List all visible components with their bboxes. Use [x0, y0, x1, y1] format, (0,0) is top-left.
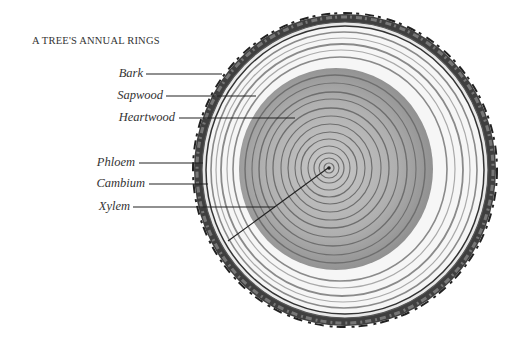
tree-cross-section: [0, 0, 524, 342]
heartwood-layer: [239, 68, 433, 270]
